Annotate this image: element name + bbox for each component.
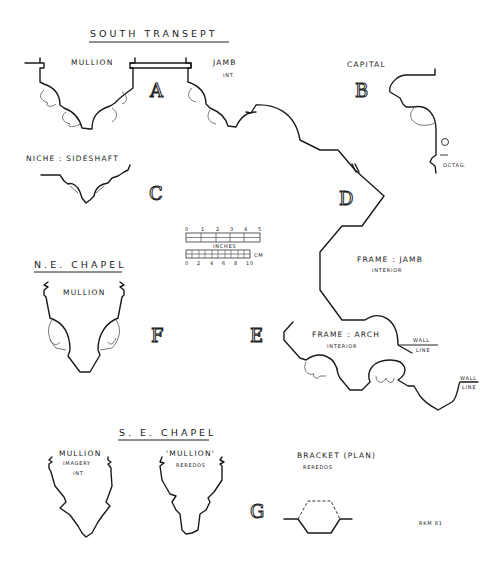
svg-text:JAMB: JAMB: [212, 58, 237, 67]
svg-text:IMAGERY: IMAGERY: [63, 460, 91, 466]
svg-text:6: 6: [222, 260, 226, 266]
svg-text:N.E. CHAPEL: N.E. CHAPEL: [34, 259, 126, 270]
svg-text:REREDOS: REREDOS: [176, 462, 206, 468]
section-a-mullion-jamb: MULLION JAMB INT. A: [25, 58, 256, 129]
svg-text:INCHES: INCHES: [213, 243, 237, 249]
artist-signature: RKM 81: [419, 520, 443, 526]
svg-text:CM: CM: [254, 252, 263, 258]
svg-text:WALL: WALL: [460, 375, 477, 381]
svg-text:3: 3: [230, 226, 234, 232]
svg-text:0: 0: [185, 260, 189, 266]
section-g-se-chapel: S. E. CHAPEL MULLION IMAGERY INT. 'MULLI…: [49, 427, 376, 537]
svg-text:G: G: [250, 501, 264, 522]
section-d-frame-jamb: D FRAME : JAMB INTERIOR WALL LINE: [246, 105, 438, 353]
svg-text:MULLION: MULLION: [59, 449, 101, 458]
svg-text:S. E. CHAPEL: S. E. CHAPEL: [119, 427, 216, 438]
svg-text:LINE: LINE: [462, 384, 476, 390]
svg-text:1: 1: [201, 226, 205, 232]
section-f-ne-chapel-mullion: N.E. CHAPEL MULLION F: [34, 259, 164, 372]
svg-text:0: 0: [185, 226, 189, 232]
svg-text:'MULLION': 'MULLION': [166, 449, 215, 458]
svg-text:REREDOS: REREDOS: [303, 464, 333, 470]
svg-text:INT.: INT.: [223, 72, 235, 78]
svg-text:CAPITAL: CAPITAL: [347, 60, 386, 69]
svg-text:INTERIOR: INTERIOR: [327, 343, 357, 349]
svg-text:2: 2: [216, 226, 220, 232]
svg-text:INT.: INT.: [73, 470, 85, 476]
svg-text:2: 2: [197, 260, 201, 266]
svg-text:MULLION: MULLION: [63, 288, 105, 297]
scale-bar: 0 1 2 3 4 5 INCHES CM 0 2 4 6 8 10: [185, 226, 263, 266]
svg-text:FRAME : JAMB: FRAME : JAMB: [357, 255, 423, 264]
svg-text:F: F: [151, 325, 164, 346]
svg-text:OCTAG.: OCTAG.: [443, 162, 467, 168]
title-south-transept: SOUTH TRANSEPT: [89, 28, 229, 42]
section-c-niche-sideshaft: NICHE : SIDESHAFT C: [26, 154, 163, 204]
svg-text:4: 4: [210, 260, 214, 266]
svg-text:D: D: [339, 188, 353, 209]
svg-text:C: C: [149, 183, 163, 204]
svg-text:NICHE : SIDESHAFT: NICHE : SIDESHAFT: [26, 154, 119, 163]
svg-text:10: 10: [246, 260, 254, 266]
svg-text:A: A: [149, 80, 164, 101]
section-b-capital: CAPITAL B OCTAG.: [347, 60, 467, 173]
svg-text:MULLION: MULLION: [71, 58, 113, 67]
svg-text:E: E: [250, 325, 263, 346]
svg-text:4: 4: [244, 226, 248, 232]
svg-text:8: 8: [234, 260, 238, 266]
svg-text:BRACKET (PLAN): BRACKET (PLAN): [297, 451, 376, 460]
architectural-drawing-sheet: SOUTH TRANSEPT MULLION JAMB INT. A D FRA…: [0, 0, 503, 568]
svg-text:LINE: LINE: [416, 347, 430, 353]
svg-text:5: 5: [258, 226, 262, 232]
svg-text:B: B: [355, 80, 368, 101]
svg-text:WALL: WALL: [413, 337, 430, 343]
section-e-frame-arch: E FRAME : ARCH INTERIOR WALL LINE: [250, 322, 478, 410]
svg-text:INTERIOR: INTERIOR: [372, 267, 402, 273]
svg-text:SOUTH TRANSEPT: SOUTH TRANSEPT: [90, 28, 218, 39]
svg-text:FRAME : ARCH: FRAME : ARCH: [312, 330, 380, 339]
